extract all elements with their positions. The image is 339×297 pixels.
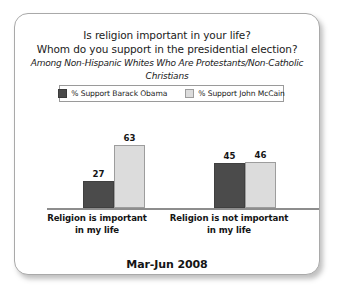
bar-wrap-obama-not-important: 45 bbox=[214, 113, 245, 208]
bar-wrap-mccain-important: 63 bbox=[114, 113, 145, 208]
chart-legend: % Support Barack Obama % Support John Mc… bbox=[59, 85, 284, 102]
bar-value-obama-not-important: 45 bbox=[224, 151, 236, 161]
bar-value-obama-important: 27 bbox=[93, 169, 105, 179]
category-label-c1-line2: in my life bbox=[207, 225, 251, 235]
category-label-religion-not-important: Religion is not important in my life bbox=[164, 213, 294, 236]
legend-item-mccain: % Support John McCain bbox=[185, 89, 285, 98]
chart-title-block: Is religion important in your life? Whom… bbox=[15, 28, 319, 83]
chart-baseline-axis bbox=[47, 208, 319, 210]
category-label-c0-line2: in my life bbox=[75, 225, 119, 235]
chart-plot-area: 27 63 45 46 bbox=[47, 113, 317, 208]
legend-label-obama: % Support Barack Obama bbox=[71, 89, 167, 98]
chart-category-labels: Religion is important in my life Religio… bbox=[47, 213, 319, 243]
chart-subtitle: Among Non-Hispanic Whites Who Are Protes… bbox=[15, 57, 319, 83]
bar-value-mccain-not-important: 46 bbox=[255, 150, 267, 160]
category-label-religion-important: Religion is important in my life bbox=[32, 213, 162, 236]
legend-swatch-light-icon bbox=[185, 89, 194, 98]
chart-screenshot: Is religion important in your life? Whom… bbox=[0, 0, 339, 297]
bar-value-mccain-important: 63 bbox=[124, 133, 136, 143]
bar-wrap-obama-important: 27 bbox=[83, 113, 114, 208]
bar-mccain-not-important bbox=[245, 162, 276, 208]
legend-item-obama: % Support Barack Obama bbox=[58, 89, 167, 98]
category-label-c0-line1: Religion is important bbox=[47, 213, 147, 223]
chart-title-line-1: Is religion important in your life? bbox=[15, 28, 319, 42]
chart-card: Is religion important in your life? Whom… bbox=[14, 13, 320, 275]
legend-label-mccain: % Support John McCain bbox=[198, 89, 285, 98]
bar-group-religion-important: 27 63 bbox=[83, 113, 145, 208]
bar-wrap-mccain-not-important: 46 bbox=[245, 113, 276, 208]
bar-obama-not-important bbox=[214, 163, 245, 208]
bar-obama-important bbox=[83, 181, 114, 208]
bar-mccain-important bbox=[114, 145, 145, 208]
chart-footer-date: Mar-Jun 2008 bbox=[15, 258, 319, 271]
chart-title-line-2: Whom do you support in the presidential … bbox=[15, 42, 319, 56]
legend-swatch-dark-icon bbox=[58, 89, 67, 98]
category-label-c1-line1: Religion is not important bbox=[170, 213, 288, 223]
bar-group-religion-not-important: 45 46 bbox=[214, 113, 276, 208]
